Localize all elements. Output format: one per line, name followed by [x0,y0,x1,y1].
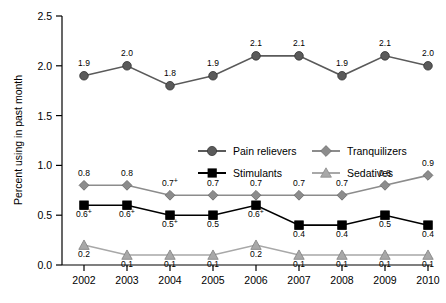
data-point-label: 0.4 [336,229,348,239]
data-point [294,190,304,200]
data-point-label: 0.6+ [248,208,264,219]
data-point-label: 0.1 [379,259,391,269]
data-point [338,71,347,80]
data-point-label: 0.7 [207,178,219,188]
data-point [381,52,390,61]
data-point-label: 0.5 [207,219,219,229]
data-point-label: 0.7 [293,178,305,188]
data-point-label: 0.6+ [76,208,92,219]
data-point-label: 2.1 [379,38,391,48]
data-point-label: 0.5+ [162,218,178,229]
series-pain-relievers: 1.92.01.81.92.12.11.92.12.0 [78,38,434,90]
data-point-label: 1.9 [336,58,348,68]
data-point [251,190,261,200]
data-point-label: 0.1 [164,259,176,269]
data-point-label: 0.1 [422,259,434,269]
x-tick-label-2002: 2002 [72,274,96,286]
series-tranquilizers: 0.80.80.7+0.70.70.70.70.80.9 [78,158,434,200]
data-point-label: 0.7 [250,178,262,188]
x-tick-label-2005: 2005 [201,274,225,286]
y-tick-label-4: 2.0 [37,60,52,72]
data-point-label: 0.1 [293,259,305,269]
data-point [423,170,433,180]
data-point [252,52,261,61]
x-tick-label-2008: 2008 [330,274,354,286]
data-point-label: 0.7+ [162,177,178,188]
data-point-label: 1.9 [207,58,219,68]
legend-label-pain-relievers: Pain relievers [233,145,297,157]
data-point [166,81,175,90]
data-point [295,52,304,61]
data-point [79,240,89,249]
data-point-label: 0.1 [121,259,133,269]
data-point [380,180,390,190]
data-point-label: 2.1 [250,38,262,48]
data-point [338,221,347,230]
data-point-label: 0.1 [336,259,348,269]
data-point [123,62,132,71]
data-point-label: 0.9 [422,158,434,168]
data-point [424,62,433,71]
data-point-label: 0.2 [78,249,90,259]
legend-marker-tranquilizers [321,146,332,157]
y-tick-label-0: 0.0 [37,259,52,271]
data-point [79,180,89,190]
data-point-label: 0.4 [293,229,305,239]
data-point-label: 0.6+ [119,208,135,219]
data-point [209,71,218,80]
data-point [424,221,433,230]
data-point-label: 1.8 [164,68,176,78]
data-point [251,240,261,249]
x-tick-label-2010: 2010 [416,274,440,286]
x-tick-label-2004: 2004 [158,274,182,286]
data-point-label: 2.0 [422,48,434,58]
x-tick-label-2006: 2006 [244,274,268,286]
legend-marker-pain-relievers [207,146,216,155]
y-tick-label-2: 1.0 [37,159,52,171]
series-stimulants: 0.6+0.6+0.5+0.50.6+0.40.40.50.4 [76,201,434,239]
data-point-label: 1.9 [78,58,90,68]
y-tick-label-3: 1.5 [37,110,52,122]
y-axis-title: Percent using in past month [12,75,24,205]
data-point-label: 0.7 [336,178,348,188]
x-tick-marks [84,265,428,271]
data-point [165,190,175,200]
x-tick-label-2003: 2003 [115,274,139,286]
data-point-label: 0.8 [78,168,90,178]
x-tick-label-2009: 2009 [373,274,397,286]
y-tick-label-5: 2.5 [37,10,52,22]
data-point-label: 0.8 [121,168,133,178]
data-point-label: 0.1 [207,259,219,269]
legend-marker-stimulants [208,168,217,177]
legend-label-stimulants: Stimulants [233,167,282,179]
y-tick-label-1: 0.5 [37,209,52,221]
data-point [295,221,304,230]
y-tick-marks [56,16,62,265]
data-point-label: 0.2 [250,249,262,259]
data-point-label: 0.4 [422,229,434,239]
data-point [208,190,218,200]
data-point-label: 0.5 [379,219,391,229]
data-point-label: 2.0 [121,48,133,58]
data-point [80,71,89,80]
line-chart: 0.0 0.5 1.0 1.5 2.0 2.5 Percent using in… [0,0,446,303]
x-tick-label-2007: 2007 [287,274,311,286]
legend: Pain relievers Tranquilizers Stimulants … [198,145,407,179]
legend-label-sedatives: Sedatives [347,167,393,179]
legend-label-tranquilizers: Tranquilizers [347,145,407,157]
data-point [337,190,347,200]
data-point [122,180,132,190]
data-point-label: 2.1 [293,38,305,48]
chart-page: 0.0 0.5 1.0 1.5 2.0 2.5 Percent using in… [0,0,446,303]
